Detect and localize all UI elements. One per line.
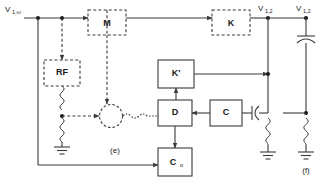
block-K-prime[interactable]: K' bbox=[158, 60, 194, 88]
capacitor-c-right bbox=[242, 106, 268, 120]
cap-tr-plate-curved bbox=[297, 39, 315, 43]
mixer[interactable] bbox=[100, 105, 123, 128]
block-C-label: C bbox=[223, 107, 230, 117]
block-K-label: K bbox=[228, 18, 235, 28]
block-D-label: D bbox=[172, 107, 179, 117]
block-C0[interactable]: C o bbox=[158, 148, 192, 176]
wire-mixer-to-D bbox=[123, 114, 158, 118]
inductor-left-f bbox=[266, 118, 270, 152]
input-source-sublabel: 1,ω bbox=[12, 9, 22, 15]
circuit-diagram: V 1,ω M K V 1,2 V 1,2 bbox=[0, 0, 324, 189]
coil-rf-lower bbox=[60, 118, 64, 142]
coil-left-f bbox=[266, 118, 270, 144]
panel-label-e: (e) bbox=[110, 146, 120, 155]
top-input-bus bbox=[24, 16, 88, 20]
inductor-rf-ground bbox=[60, 86, 64, 142]
block-D[interactable]: D bbox=[158, 100, 192, 126]
coil-rf-upper bbox=[60, 86, 64, 110]
node-v12-a-sublabel: 1,2 bbox=[265, 8, 273, 14]
ground-rf bbox=[54, 142, 70, 154]
coil-right-f bbox=[304, 118, 308, 144]
block-RF[interactable]: RF bbox=[44, 60, 80, 86]
block-C0-label: C bbox=[170, 157, 177, 167]
block-K[interactable]: K bbox=[212, 10, 250, 35]
inductor-right-f bbox=[304, 118, 308, 152]
ground-right-f bbox=[298, 152, 314, 159]
cap-cr-plate-curved bbox=[255, 106, 259, 120]
panel-label-f: (f) bbox=[302, 166, 310, 175]
block-C[interactable]: C bbox=[210, 100, 242, 126]
diagram-canvas: V 1,ω M K V 1,2 V 1,2 bbox=[0, 0, 324, 189]
block-RF-label: RF bbox=[56, 67, 68, 77]
block-C0-sublabel: o bbox=[180, 162, 183, 168]
block-K-prime-label: K' bbox=[172, 68, 181, 78]
node-v12-b-label: V bbox=[296, 4, 302, 13]
junction-dot-rail-kprime bbox=[266, 72, 270, 76]
input-source-label: V bbox=[5, 5, 11, 14]
node-v12-a-label: V bbox=[258, 4, 264, 13]
node-v12-b-sublabel: 1,2 bbox=[303, 8, 311, 14]
ground-left-f bbox=[260, 152, 276, 159]
capacitor-top-right bbox=[297, 18, 315, 62]
